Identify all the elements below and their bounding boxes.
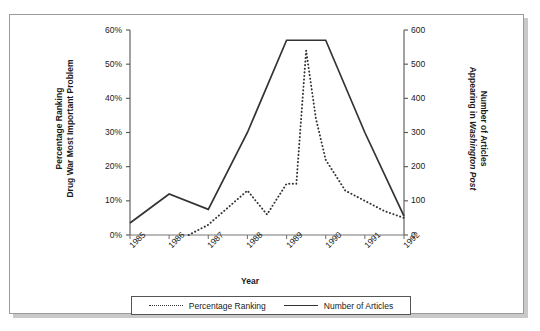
left-axis-tick-label: 0% [88, 230, 122, 240]
legend-swatch-solid-icon [284, 305, 318, 306]
right-axis-tick-label: 500 [411, 59, 445, 69]
legend-item-label: Number of Articles [324, 301, 393, 311]
left-axis-tick-label: 60% [88, 25, 122, 35]
right-axis-tick-label: 300 [411, 127, 445, 137]
chart-figure: Percentage Ranking Drug War Most Importa… [0, 0, 540, 331]
left-axis-tick-label: 40% [88, 93, 122, 103]
legend-item-label: Percentage Ranking [189, 301, 266, 311]
right-axis-tick-label: 200 [411, 161, 445, 171]
left-axis-tick-label: 10% [88, 195, 122, 205]
right-axis-tick-label: 100 [411, 195, 445, 205]
plot-canvas [0, 0, 540, 331]
chart-legend: Percentage RankingNumber of Articles [131, 296, 411, 315]
left-axis-tick-label: 30% [88, 127, 122, 137]
series-line [189, 51, 404, 236]
legend-swatch-dotted-icon [149, 305, 183, 306]
legend-item: Number of Articles [284, 301, 393, 311]
series-line [130, 40, 404, 223]
legend-item: Percentage Ranking [149, 301, 266, 311]
right-axis-tick-label: 600 [411, 25, 445, 35]
left-axis-tick-label: 20% [88, 161, 122, 171]
right-axis-tick-label: 400 [411, 93, 445, 103]
left-axis-tick-label: 50% [88, 59, 122, 69]
